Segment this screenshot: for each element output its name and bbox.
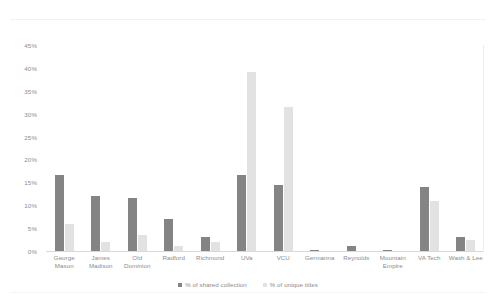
bar xyxy=(237,175,246,251)
x-axis-tick: Radford xyxy=(156,254,193,280)
bar xyxy=(55,175,64,251)
x-axis-tick-labels: George MasonJames MadisonOld DominionRad… xyxy=(46,254,484,280)
y-axis-tick: 25% xyxy=(24,133,37,140)
x-axis-tick: UVa xyxy=(229,254,266,280)
bar-groups xyxy=(46,45,484,251)
bar-group xyxy=(411,45,448,251)
bar-group xyxy=(229,45,266,251)
bar-group xyxy=(375,45,412,251)
bar xyxy=(466,240,475,251)
bar xyxy=(247,72,256,251)
x-axis-tick: Old Dominion xyxy=(119,254,156,280)
bar xyxy=(201,237,210,251)
bar-group xyxy=(448,45,485,251)
y-axis-tick: 35% xyxy=(24,87,37,94)
bar xyxy=(274,185,283,251)
bar xyxy=(101,242,110,251)
legend-swatch-icon xyxy=(178,283,182,287)
y-axis-tick: 30% xyxy=(24,110,37,117)
legend-item[interactable]: % of unique titles xyxy=(263,281,318,288)
y-axis-tick: 10% xyxy=(24,202,37,209)
bar-group xyxy=(265,45,302,251)
bar-group xyxy=(192,45,229,251)
y-axis-tick: 45% xyxy=(24,42,37,49)
x-axis-tick: Germanna xyxy=(302,254,339,280)
x-axis-tick: VCU xyxy=(265,254,302,280)
y-axis-tick: 20% xyxy=(24,156,37,163)
bar xyxy=(128,198,137,251)
bar xyxy=(138,235,147,251)
y-axis-tick: 40% xyxy=(24,64,37,71)
bar xyxy=(174,246,183,251)
bar xyxy=(211,242,220,251)
y-axis-tick: 0% xyxy=(28,248,37,255)
bar-group xyxy=(119,45,156,251)
bar xyxy=(91,196,100,251)
bar xyxy=(65,224,74,251)
x-axis-tick: VA Tech xyxy=(411,254,448,280)
bar xyxy=(456,237,465,251)
bar xyxy=(310,250,319,251)
bar-group xyxy=(83,45,120,251)
bar xyxy=(430,201,439,251)
legend-label: % of shared collection xyxy=(185,281,247,288)
bar-group xyxy=(338,45,375,251)
legend-swatch-icon xyxy=(263,283,267,287)
top-divider xyxy=(10,19,486,20)
chart-legend: % of shared collection% of unique titles xyxy=(0,281,496,288)
x-axis-tick: Wash & Lee xyxy=(448,254,485,280)
bar xyxy=(383,250,392,251)
x-axis-tick: Richmond xyxy=(192,254,229,280)
x-axis-tick: Mountain Empire xyxy=(375,254,412,280)
bar-group xyxy=(302,45,339,251)
y-axis-tick-labels: 45%40%35%30%25%20%15%10%5%0% xyxy=(0,45,42,251)
bar xyxy=(347,246,356,251)
bar xyxy=(284,107,293,251)
bar-chart: 45%40%35%30%25%20%15%10%5%0% George Maso… xyxy=(0,0,496,307)
x-axis-tick: George Mason xyxy=(46,254,83,280)
x-axis-line xyxy=(46,251,484,252)
bar xyxy=(420,187,429,251)
bottom-divider xyxy=(10,292,486,293)
legend-item[interactable]: % of shared collection xyxy=(178,281,247,288)
x-axis-tick: James Madison xyxy=(83,254,120,280)
y-axis-tick: 15% xyxy=(24,179,37,186)
legend-label: % of unique titles xyxy=(270,281,318,288)
bar-group xyxy=(156,45,193,251)
x-axis-tick: Reynolds xyxy=(338,254,375,280)
bar-group xyxy=(46,45,83,251)
bar xyxy=(164,219,173,251)
y-axis-tick: 5% xyxy=(28,225,37,232)
